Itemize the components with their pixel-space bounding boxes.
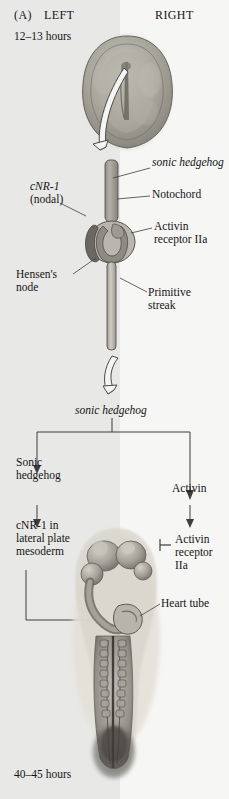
label-primitive-streak-line1: Primitive bbox=[148, 286, 191, 299]
timepoint-top: 12–13 hours bbox=[14, 30, 71, 43]
label-right-side: RIGHT bbox=[155, 9, 194, 22]
flow-left-node1-line1: Sonic bbox=[16, 456, 42, 469]
flow-left-node1-line2: hedgehog bbox=[16, 469, 61, 482]
flow-right-node2-line1: Activin bbox=[175, 533, 210, 546]
arrow-middle-to-flow bbox=[103, 356, 118, 394]
inhibition-symbol bbox=[160, 539, 171, 551]
heart-tube-shape bbox=[114, 604, 143, 634]
label-hensens-node-line1: Hensen's bbox=[16, 268, 57, 281]
label-left-side: LEFT bbox=[44, 9, 74, 22]
label-cnr1-sub: (nodal) bbox=[30, 193, 63, 206]
node-streak-diagram bbox=[85, 160, 135, 350]
flow-right-node2-line2: receptor bbox=[175, 546, 213, 559]
notochord-shape bbox=[105, 160, 118, 222]
timepoint-bottom: 40–45 hours bbox=[14, 768, 71, 781]
figure-artwork bbox=[0, 0, 229, 799]
primitive-streak-shape bbox=[107, 262, 116, 350]
flow-left-node2-line2: lateral plate bbox=[16, 532, 70, 545]
flow-right-node1: Activin bbox=[172, 482, 207, 495]
flow-left-node2-line3: mesoderm bbox=[16, 545, 64, 558]
label-notochord: Notochord bbox=[152, 188, 201, 201]
bottom-embryo-image bbox=[72, 528, 160, 778]
label-hensens-node-line2: node bbox=[16, 281, 38, 294]
flow-left-node2-line1: cNR-1 in bbox=[16, 519, 58, 532]
label-activin-receptor-line1: Activin bbox=[154, 220, 189, 233]
label-activin-receptor-line2: receptor IIa bbox=[154, 233, 207, 246]
label-cnr1: cNR-1 bbox=[30, 180, 59, 193]
label-heart-tube: Heart tube bbox=[161, 597, 209, 610]
panel-label: (A) bbox=[14, 9, 32, 22]
flow-source-label: sonic hedgehog bbox=[75, 404, 147, 417]
label-primitive-streak-line2: streak bbox=[148, 299, 175, 312]
figure-panel-a: (A) LEFT RIGHT 12–13 hours sonic hedgeho… bbox=[0, 0, 229, 799]
label-sonic-hedgehog-top: sonic hedgehog bbox=[152, 156, 224, 169]
top-embryo-image bbox=[83, 35, 173, 149]
flow-right-node2-line3: IIa bbox=[175, 559, 188, 572]
